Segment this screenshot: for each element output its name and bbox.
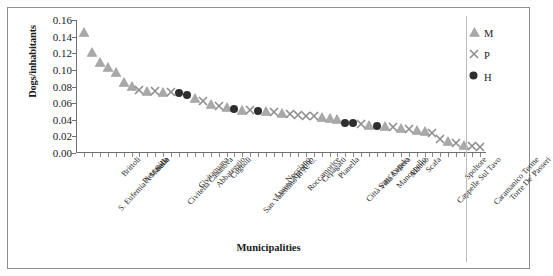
- y-axis-tick: [72, 70, 76, 71]
- y-axis-tick-label: 0.00: [36, 148, 72, 159]
- plot-area: [76, 20, 486, 153]
- y-axis-tick: [72, 136, 76, 137]
- legend-label: H: [484, 72, 492, 83]
- y-axis-tick-labels: 0.160.140.120.100.080.060.040.020.00: [36, 20, 72, 153]
- y-axis-tick-label: 0.10: [36, 64, 72, 75]
- legend-label: P: [484, 50, 490, 61]
- y-axis-tick: [72, 53, 76, 54]
- y-axis-line: [76, 20, 77, 153]
- y-axis-tick-label: 0.08: [36, 81, 72, 92]
- triangle-marker-icon: [469, 27, 481, 39]
- y-axis-tick: [72, 20, 76, 21]
- y-axis-tick-label: 0.06: [36, 98, 72, 109]
- legend-item-p: P: [469, 44, 515, 66]
- x-marker-icon: [469, 49, 481, 61]
- y-axis-tick-label: 0.14: [36, 31, 72, 42]
- chart-frame: Dogs/inhabitants 0.160.140.120.100.080.0…: [7, 7, 530, 269]
- y-axis-tick-label: 0.04: [36, 114, 72, 125]
- legend-item-m: M: [469, 22, 515, 44]
- y-axis-tick-label: 0.16: [36, 15, 72, 26]
- circle-marker-icon: [469, 71, 481, 83]
- legend-divider: [466, 16, 467, 262]
- x-axis-title: Municipalities: [0, 242, 537, 253]
- legend-label: M: [484, 28, 493, 39]
- data-point-m: [79, 27, 90, 37]
- chart-legend: MPH: [469, 22, 515, 88]
- y-axis-tick: [72, 153, 76, 154]
- y-axis-tick: [72, 37, 76, 38]
- x-axis-category-labels: S. Eufemia A MaiellaBrittoliPietranicoSa…: [76, 155, 496, 250]
- y-axis-tick: [72, 120, 76, 121]
- y-axis-tick: [72, 103, 76, 104]
- y-axis-tick: [72, 87, 76, 88]
- data-point-m: [86, 47, 97, 57]
- data-point-p: [475, 142, 485, 152]
- y-axis-tick-label: 0.02: [36, 131, 72, 142]
- y-axis-tick-label: 0.12: [36, 48, 72, 59]
- x-axis-category-label: Brittoli: [120, 155, 143, 178]
- legend-item-h: H: [469, 66, 515, 88]
